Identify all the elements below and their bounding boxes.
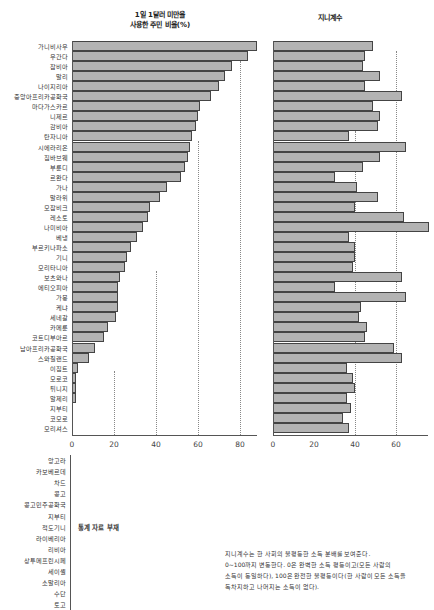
country-label: 나미비아 xyxy=(44,223,68,232)
poverty-bar xyxy=(72,292,118,302)
country-label: 감비아 xyxy=(50,122,68,131)
country-label: 가니비사우 xyxy=(38,42,68,51)
gini-bar xyxy=(273,413,343,423)
country-label: 알제리 xyxy=(50,394,68,403)
country-label: 시에라리온 xyxy=(38,143,68,152)
poverty-bar xyxy=(72,353,89,363)
gini-bar xyxy=(273,332,365,342)
poverty-bar xyxy=(72,262,125,272)
gini-bar xyxy=(273,212,404,222)
gini-bar xyxy=(273,81,365,91)
right-x-tick: 0 xyxy=(271,440,276,449)
no-data-country-label: 지부티 xyxy=(48,512,66,521)
country-label: 마다가스카르 xyxy=(32,102,68,111)
poverty-bar xyxy=(72,91,211,101)
gini-bar xyxy=(273,91,402,101)
poverty-bar xyxy=(72,111,198,121)
country-label: 코트디부아르 xyxy=(32,333,68,342)
gini-bar xyxy=(273,232,349,242)
gini-bar xyxy=(273,172,335,182)
country-label: 에티오피아 xyxy=(38,283,68,292)
gini-bar xyxy=(273,182,357,192)
gini-bar xyxy=(273,51,365,61)
country-label: 가봉 xyxy=(56,293,68,302)
gini-bar xyxy=(273,152,380,162)
poverty-bar xyxy=(72,282,118,292)
country-label: 가나 xyxy=(56,183,68,192)
right-y-axis xyxy=(273,41,274,435)
country-label: 모리타니아 xyxy=(38,263,68,272)
gini-bar xyxy=(273,131,349,141)
right-x-tick: 20 xyxy=(309,440,319,449)
right-gridline xyxy=(355,131,356,435)
gini-bar xyxy=(273,242,355,252)
poverty-bar xyxy=(72,192,160,202)
gini-bar xyxy=(273,393,347,403)
note-line-2: 0~100까지 변동한다. 0은 완벽한 소득 평등이고(모든 사람의 xyxy=(225,559,430,570)
poverty-bar xyxy=(72,312,116,322)
left-x-axis xyxy=(72,435,257,436)
no-data-country-label: 콩고민주공화국 xyxy=(24,500,66,509)
gini-bar xyxy=(273,111,380,121)
left-gridline xyxy=(114,371,115,435)
country-label: 남아프리카공화국 xyxy=(20,344,68,353)
country-label: 케냐 xyxy=(56,303,68,312)
gini-note: 지니계수는 한 사회의 불평등한 소득 분배를 보여준다. 0~100까지 변동… xyxy=(225,548,430,592)
country-label: 코모로 xyxy=(50,414,68,423)
gini-bar xyxy=(273,343,394,353)
poverty-bar xyxy=(72,212,148,222)
gini-bar xyxy=(273,403,351,413)
left-x-tick: 20 xyxy=(109,440,119,449)
gini-bar xyxy=(273,282,335,292)
left-x-tick: 0 xyxy=(70,440,75,449)
poverty-bar xyxy=(72,242,131,252)
note-line-1: 지니계수는 한 사회의 불평등한 소득 분배를 보여준다. xyxy=(225,548,430,559)
poverty-bar xyxy=(72,222,143,232)
country-label: 레소토 xyxy=(50,213,68,222)
no-data-axis xyxy=(70,455,71,610)
poverty-bar xyxy=(72,162,185,172)
no-data-country-label: 리비아 xyxy=(48,545,66,554)
no-data-country-label: 세이셸 xyxy=(48,567,66,576)
left-gridline xyxy=(240,61,241,435)
country-label: 탄자니아 xyxy=(44,132,68,141)
gini-bar xyxy=(273,312,359,322)
country-label: 니제르 xyxy=(50,112,68,121)
no-data-country-label: 적도기니 xyxy=(42,523,66,532)
poverty-bar xyxy=(72,182,167,192)
gini-bar xyxy=(273,121,378,131)
country-label: 나이지리아 xyxy=(38,82,68,91)
country-label: 지부티 xyxy=(50,404,68,413)
gini-bar xyxy=(273,71,380,81)
country-label: 보츠와나 xyxy=(44,273,68,282)
poverty-bar xyxy=(72,332,104,342)
no-data-country-label: 소말리아 xyxy=(42,578,66,587)
gini-bar xyxy=(273,252,355,262)
poverty-bar xyxy=(72,121,196,131)
poverty-bar xyxy=(72,272,120,282)
poverty-bar xyxy=(72,81,219,91)
right-x-tick: 60 xyxy=(391,440,401,449)
poverty-bar xyxy=(72,322,108,332)
gini-bar xyxy=(273,353,402,363)
country-label: 우간다 xyxy=(50,52,68,61)
gini-bar xyxy=(273,423,349,433)
no-data-country-label: 카보베르데 xyxy=(36,467,66,476)
poverty-bar xyxy=(72,61,232,71)
left-title-line2: 사용한 주민 비율(%) xyxy=(100,20,220,30)
country-label: 카메룬 xyxy=(50,323,68,332)
poverty-bar xyxy=(72,302,118,312)
gini-bar xyxy=(273,373,353,383)
country-label: 베냉 xyxy=(56,233,68,242)
gini-bar xyxy=(273,363,347,373)
right-gridline xyxy=(396,51,397,435)
country-label: 모리셔스 xyxy=(44,424,68,433)
country-label: 르완다 xyxy=(50,173,68,182)
no-data-country-label: 라이베리아 xyxy=(36,534,66,543)
gini-bar xyxy=(273,292,406,302)
no-data-country-label: 수단 xyxy=(54,589,66,598)
country-label: 말리 xyxy=(56,72,68,81)
gini-bar xyxy=(273,41,373,51)
country-label: 모잠비크 xyxy=(44,203,68,212)
note-line-3: 소득이 동일하다), 100은 완전한 불평등이다(한 사람이 모든 소득을 xyxy=(225,570,430,581)
